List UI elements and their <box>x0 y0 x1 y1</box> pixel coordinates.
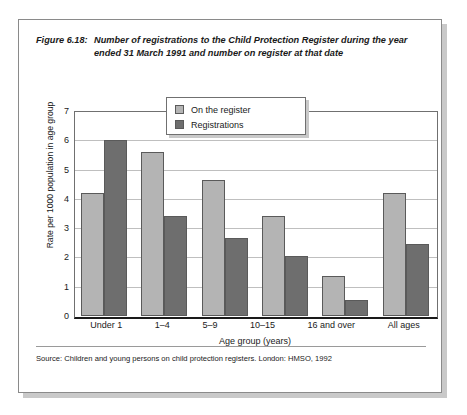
y-axis-tick: 3 <box>53 223 69 233</box>
bar-chart: Rate per 1000 population in age group 01… <box>19 20 443 394</box>
bar-body <box>225 238 248 316</box>
bar-group <box>202 111 248 316</box>
legend-swatch <box>175 105 184 114</box>
chart-legend: On the registerRegistrations <box>166 97 306 135</box>
y-axis-tick: 4 <box>53 194 69 204</box>
bar <box>202 180 225 316</box>
source-note: Source: Children and young persons on ch… <box>36 354 428 363</box>
y-axis-tick-labels: 01234567 <box>51 111 69 316</box>
bar-group <box>262 111 308 316</box>
bar <box>285 256 308 316</box>
bar <box>164 216 187 316</box>
bar-body <box>345 300 368 316</box>
bar <box>104 140 127 316</box>
bar-group <box>141 111 187 316</box>
bar-body <box>262 216 285 316</box>
bar-group <box>81 111 127 316</box>
figure-frame: Figure 6.18: Number of registrations to … <box>18 19 442 393</box>
y-axis-tick: 7 <box>53 106 69 116</box>
bar <box>141 152 164 316</box>
legend-item: On the register <box>175 102 305 117</box>
bar <box>81 193 104 316</box>
y-axis-tick: 1 <box>53 282 69 292</box>
x-axis-tick-labels: Under 11–45–910–1516 and overAll ages <box>74 320 436 330</box>
legend-label: On the register <box>191 105 251 115</box>
x-axis-tick: 1–4 <box>155 320 170 330</box>
bar-body <box>406 244 429 316</box>
x-axis-tick: 16 and over <box>308 320 356 330</box>
y-axis-tick: 0 <box>53 311 69 321</box>
x-axis-title: Age group (years) <box>74 336 436 346</box>
legend-swatch <box>175 120 184 129</box>
bar <box>322 276 345 316</box>
figure-page: Figure 6.18: Number of registrations to … <box>0 0 467 415</box>
bar-body <box>202 180 225 316</box>
bar-body <box>81 193 104 316</box>
bar <box>383 193 406 316</box>
bar-body <box>141 152 164 316</box>
legend-label: Registrations <box>191 120 244 130</box>
x-axis-tick: Under 1 <box>90 320 122 330</box>
source-divider <box>36 346 426 347</box>
bar <box>262 216 285 316</box>
x-axis-tick: 10–15 <box>250 320 275 330</box>
bar-body <box>285 256 308 316</box>
x-axis-tick: 5–9 <box>202 320 217 330</box>
legend-item: Registrations <box>175 117 305 132</box>
y-axis-tick: 6 <box>53 135 69 145</box>
bar-body <box>322 276 345 316</box>
bar-body <box>164 216 187 316</box>
bar <box>345 300 368 316</box>
y-axis-tick: 5 <box>53 165 69 175</box>
bar <box>225 238 248 316</box>
bar <box>406 244 429 316</box>
y-axis-tick: 2 <box>53 252 69 262</box>
bar-group <box>383 111 429 316</box>
bar-group <box>322 111 368 316</box>
bar-groups <box>74 111 436 316</box>
bar-body <box>104 140 127 316</box>
bar-body <box>383 193 406 316</box>
x-axis-tick: All ages <box>388 320 420 330</box>
